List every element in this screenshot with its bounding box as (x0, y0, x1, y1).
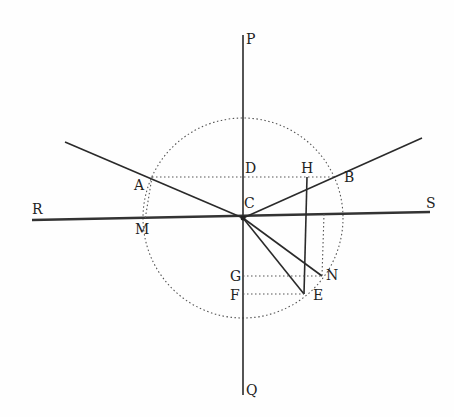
label-H: H (301, 161, 313, 175)
label-R: R (32, 202, 43, 216)
label-A: A (134, 178, 144, 192)
label-E: E (313, 288, 323, 302)
diagram-svg (0, 0, 454, 417)
label-F: F (230, 288, 240, 302)
label-G: G (230, 269, 241, 283)
label-Q: Q (246, 383, 257, 397)
label-D: D (245, 161, 256, 175)
label-B: B (344, 170, 354, 184)
label-M: M (135, 222, 149, 236)
label-P: P (246, 32, 255, 46)
dotted-AM (145, 177, 152, 220)
label-S: S (426, 196, 436, 210)
dotted-N-vertical (322, 214, 324, 276)
point-C (241, 216, 246, 221)
ray-CB (243, 138, 422, 218)
diagram-canvas: P Q R S A B C D H M G F E N (0, 0, 454, 417)
label-C: C (244, 196, 255, 210)
ray-AC (65, 142, 243, 218)
label-N: N (326, 268, 338, 282)
